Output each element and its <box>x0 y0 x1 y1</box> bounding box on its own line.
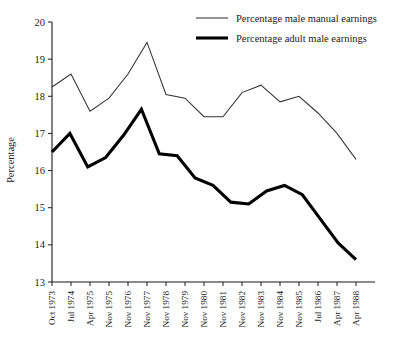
y-tick-label: 13 <box>35 277 46 288</box>
legend-label-male-manual-earnings: Percentage male manual earnings <box>236 13 377 24</box>
x-tick-label: Apr 1988 <box>351 291 361 326</box>
x-tick-label: Nov 1982 <box>237 291 247 328</box>
x-tick-label: Jul 1974 <box>66 291 76 323</box>
x-tick-label: Nov 1977 <box>142 291 152 328</box>
y-axis-title: Percentage <box>5 137 16 183</box>
x-tick-label: Nov 1979 <box>180 291 190 328</box>
x-tick-label: Nov 1984 <box>275 291 285 328</box>
line-chart: Percentage male manual earnings Percenta… <box>0 0 393 346</box>
x-tick-label: Nov 1975 <box>104 291 114 328</box>
y-axis: 1314151617181920 Percentage <box>5 17 52 288</box>
x-tick-label: Oct 1973 <box>47 291 57 325</box>
plot-area <box>52 42 356 259</box>
y-tick-group: 1314151617181920 <box>35 17 53 288</box>
series-line-male-manual-earnings <box>52 42 356 159</box>
x-tick-label: Nov 1980 <box>199 291 209 328</box>
chart-container: Percentage male manual earnings Percenta… <box>0 0 393 346</box>
series-line-adult-male-earnings <box>52 109 356 259</box>
legend-label-adult-male-earnings: Percentage adult male earnings <box>236 33 367 44</box>
x-tick-label: Apr 1975 <box>85 291 95 326</box>
y-tick-label: 16 <box>35 165 46 176</box>
y-tick-label: 18 <box>35 91 46 102</box>
y-tick-label: 15 <box>35 202 46 213</box>
x-tick-label: Nov 1983 <box>256 291 266 328</box>
x-tick-label: Nov 1981 <box>218 291 228 328</box>
x-tick-label: Jul 1986 <box>313 291 323 323</box>
y-tick-label: 14 <box>35 239 46 250</box>
legend: Percentage male manual earnings Percenta… <box>196 13 377 44</box>
y-tick-label: 17 <box>35 128 46 139</box>
x-tick-group: Oct 1973Jul 1974Apr 1975Nov 1975Nov 1976… <box>47 282 361 328</box>
x-tick-label: Nov 1985 <box>294 291 304 328</box>
y-tick-label: 20 <box>35 17 46 28</box>
y-tick-label: 19 <box>35 54 46 65</box>
x-tick-label: Nov 1976 <box>123 291 133 328</box>
x-tick-label: Apr 1987 <box>332 291 342 326</box>
x-axis: Oct 1973Jul 1974Apr 1975Nov 1975Nov 1976… <box>47 282 375 328</box>
x-tick-label: Nov 1978 <box>161 291 171 328</box>
